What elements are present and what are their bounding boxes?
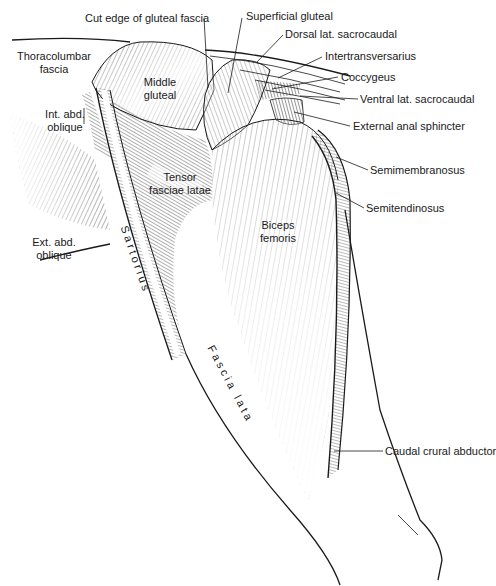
- label-ventral-lat-sacrocaudal: Ventral lat. sacrocaudal: [360, 93, 474, 106]
- label-thoracolumbar-fascia: Thoracolumbar fascia: [14, 50, 94, 76]
- label-cut-edge-gluteal-fascia: Cut edge of gluteal fascia: [85, 12, 209, 25]
- label-tensor-line1: Tensor: [140, 171, 220, 184]
- label-middle-gluteal-line2: gluteal: [130, 89, 190, 102]
- label-superficial-gluteal: Superficial gluteal: [246, 10, 333, 23]
- label-tensor-line2: fasciae latae: [140, 184, 220, 197]
- biceps-femoris-muscle: [212, 119, 339, 500]
- label-int-abd-oblique: Int. abd. oblique: [40, 108, 90, 134]
- label-ext-abd-line1: Ext. abd.: [24, 236, 84, 249]
- label-thoracolumbar-line1: Thoracolumbar: [14, 50, 94, 63]
- label-coccygeus: Coccygeus: [341, 71, 395, 84]
- label-dorsal-lat-sacrocaudal: Dorsal lat. sacrocaudal: [285, 28, 397, 41]
- back-outline: [12, 38, 130, 42]
- label-external-anal-sphincter: External anal sphincter: [353, 120, 465, 133]
- label-caudal-crural-abductor: Caudal crural abductor: [385, 445, 496, 458]
- label-biceps-line2: femoris: [248, 232, 308, 245]
- label-intertransversarius: Intertransversarius: [325, 50, 416, 63]
- label-semimembranosus: Semimembranosus: [370, 164, 465, 177]
- label-tensor-fasciae-latae: Tensor fasciae latae: [140, 171, 220, 197]
- label-biceps-femoris: Biceps femoris: [248, 219, 308, 245]
- label-int-abd-line1: Int. abd.: [40, 108, 90, 121]
- label-thoracolumbar-line2: fascia: [14, 63, 94, 76]
- label-int-abd-line2: oblique: [40, 121, 90, 134]
- label-middle-gluteal-line1: Middle: [130, 76, 190, 89]
- label-ext-abd-oblique: Ext. abd. oblique: [24, 236, 84, 262]
- label-biceps-line1: Biceps: [248, 219, 308, 232]
- label-ext-abd-line2: oblique: [24, 249, 84, 262]
- label-semitendinosus: Semitendinosus: [366, 202, 444, 215]
- label-middle-gluteal: Middle gluteal: [130, 76, 190, 102]
